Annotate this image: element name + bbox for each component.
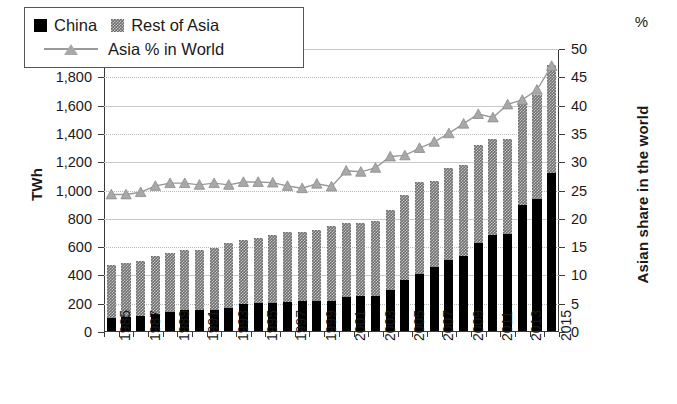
x-axis-tick-label-1997: 1997 xyxy=(293,310,309,341)
x-axis-tick-label-1999: 1999 xyxy=(323,310,339,341)
percent-marker-2006 xyxy=(414,143,424,153)
left-axis-tick-label: 1,800 xyxy=(18,70,92,85)
right-axis-tick xyxy=(559,49,565,50)
x-axis-tick-label-2013: 2013 xyxy=(528,310,544,341)
percent-marker-2003 xyxy=(370,163,380,173)
right-axis-tick-label: 40 xyxy=(571,99,611,114)
right-axis-tick-label: 5 xyxy=(571,297,611,312)
right-axis-tick xyxy=(559,275,565,276)
line-marker-icon xyxy=(44,42,98,56)
percent-marker-1992 xyxy=(209,178,219,188)
percent-marker-1987 xyxy=(135,187,145,197)
percent-marker-2014 xyxy=(532,85,542,95)
left-axis-tick-label: 600 xyxy=(18,240,92,255)
left-axis-tick-label: 1,600 xyxy=(18,99,92,114)
x-axis-tick-label-1985: 1985 xyxy=(117,310,133,341)
legend-label-asia-percent: Asia % in World xyxy=(108,40,224,59)
left-axis-tick-label: 1,000 xyxy=(18,184,92,199)
x-axis-tick-label-1987: 1987 xyxy=(147,310,163,341)
right-axis-tick-label: 15 xyxy=(571,240,611,255)
right-axis-tick-label: 35 xyxy=(571,127,611,142)
percent-marker-2009 xyxy=(458,119,468,129)
rest-of-asia-swatch-icon xyxy=(111,19,124,32)
right-axis-title: Asian share in the world xyxy=(634,85,651,305)
right-axis-tick xyxy=(559,162,565,163)
left-axis-tick-label: 200 xyxy=(18,297,92,312)
right-axis-tick-label: 0 xyxy=(571,325,611,340)
x-axis-tick-label-1991: 1991 xyxy=(205,310,221,341)
percent-line-series xyxy=(104,49,559,332)
right-axis-tick-label: 25 xyxy=(571,184,611,199)
x-axis-tick-label-1993: 1993 xyxy=(235,310,251,341)
x-axis-tick xyxy=(544,332,545,337)
percent-marker-1999 xyxy=(312,179,322,189)
left-axis-tick-label: 400 xyxy=(18,268,92,283)
legend-label-china: China xyxy=(54,16,97,35)
x-axis-tick-label-2003: 2003 xyxy=(382,310,398,341)
legend-row-line: Asia % in World xyxy=(34,37,294,61)
x-axis-tick xyxy=(104,332,105,337)
right-axis-tick xyxy=(559,247,565,248)
left-axis-tick-label: 1,400 xyxy=(18,127,92,142)
x-axis-tick xyxy=(309,332,310,337)
right-axis-tick-label: 10 xyxy=(571,268,611,283)
right-axis-tick-label: 50 xyxy=(571,42,611,57)
x-axis-tick xyxy=(368,332,369,337)
x-axis-tick xyxy=(133,332,134,337)
left-axis-tick-label: 800 xyxy=(18,212,92,227)
right-axis-tick xyxy=(559,134,565,135)
right-axis-tick xyxy=(559,77,565,78)
percent-marker-2007 xyxy=(429,137,439,147)
legend-label-rest-of-asia: Rest of Asia xyxy=(131,16,219,35)
x-axis-tick-label-2015: 2015 xyxy=(558,310,574,341)
chart-canvas: TWh % Asian share in the world 020040060… xyxy=(0,0,677,404)
plot-area xyxy=(104,49,559,332)
percent-marker-2008 xyxy=(444,128,454,138)
x-axis-tick xyxy=(192,332,193,337)
legend: China Rest of Asia Asia % in World xyxy=(24,7,304,68)
x-axis-tick-label-2009: 2009 xyxy=(470,310,486,341)
right-axis-tick-label: 30 xyxy=(571,155,611,170)
percent-marker-2015 xyxy=(546,61,556,71)
x-axis-tick-label-2007: 2007 xyxy=(440,310,456,341)
x-axis-tick xyxy=(456,332,457,337)
x-axis-tick-label-1989: 1989 xyxy=(176,310,192,341)
right-axis-tick-label: 20 xyxy=(571,212,611,227)
left-axis-tick-label: 1,200 xyxy=(18,155,92,170)
percent-line-path xyxy=(111,66,551,194)
percent-marker-2010 xyxy=(473,109,483,119)
x-axis-tick-label-2005: 2005 xyxy=(411,310,427,341)
x-axis-tick-label-1995: 1995 xyxy=(264,310,280,341)
right-axis-tick xyxy=(559,304,565,305)
percent-symbol: % xyxy=(635,13,648,30)
x-axis-tick xyxy=(221,332,222,337)
china-swatch-icon xyxy=(34,19,47,32)
x-axis-tick-label-2011: 2011 xyxy=(499,311,515,341)
right-axis-tick-label: 45 xyxy=(571,70,611,85)
right-axis-tick xyxy=(559,219,565,220)
x-axis-tick xyxy=(427,332,428,337)
legend-row-bars: China Rest of Asia xyxy=(34,13,294,37)
x-axis-tick xyxy=(515,332,516,337)
right-axis-tick xyxy=(559,106,565,107)
right-axis-tick xyxy=(559,191,565,192)
x-axis-tick xyxy=(280,332,281,337)
percent-marker-2013 xyxy=(517,95,527,105)
left-axis-tick-label: 0 xyxy=(18,325,92,340)
x-axis-tick-label-2001: 2001 xyxy=(352,310,368,341)
